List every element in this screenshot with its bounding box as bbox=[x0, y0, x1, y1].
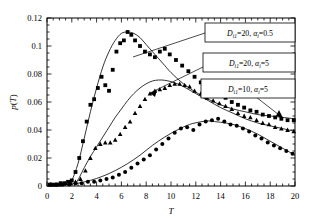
legend-label-2: Di1=20, αi=5 bbox=[228, 59, 269, 69]
data-point-circle bbox=[49, 183, 53, 187]
x-tick-label: 0 bbox=[45, 191, 49, 201]
data-point-circle bbox=[185, 125, 189, 129]
data-point-square bbox=[168, 53, 172, 57]
data-point-square bbox=[89, 103, 93, 107]
x-tick-label: 8 bbox=[144, 191, 148, 201]
data-point-square bbox=[111, 68, 115, 72]
data-point-square bbox=[92, 97, 96, 101]
y-tick-label: 0.1 bbox=[31, 41, 42, 51]
data-point-circle bbox=[253, 134, 257, 138]
x-tick-label: 18 bbox=[266, 191, 275, 201]
data-point-circle bbox=[80, 181, 84, 185]
data-point-square bbox=[74, 170, 78, 174]
x-tick-label: 6 bbox=[119, 191, 123, 201]
svg-text:p(T): p(T) bbox=[8, 94, 18, 111]
data-point-circle bbox=[266, 141, 270, 145]
data-point-square bbox=[122, 39, 126, 43]
x-tick-label: 14 bbox=[216, 191, 225, 201]
data-point-circle bbox=[67, 183, 71, 187]
x-tick-label: 12 bbox=[192, 191, 201, 201]
data-point-circle bbox=[61, 183, 65, 187]
y-tick-label: 0.04 bbox=[27, 125, 43, 135]
data-point-circle bbox=[117, 173, 121, 177]
data-point-circle bbox=[123, 170, 127, 174]
data-point-square bbox=[96, 86, 100, 90]
data-point-square bbox=[103, 83, 107, 87]
data-point-square bbox=[163, 47, 167, 51]
data-point-circle bbox=[216, 117, 220, 121]
data-point-circle bbox=[148, 153, 152, 157]
data-point-square bbox=[148, 53, 152, 57]
data-point-square bbox=[118, 41, 122, 45]
data-point-circle bbox=[160, 142, 164, 146]
data-point-circle bbox=[198, 122, 202, 126]
data-point-square bbox=[186, 69, 190, 73]
data-point-circle bbox=[105, 177, 109, 181]
data-point-square bbox=[242, 106, 246, 110]
data-point-circle bbox=[154, 148, 158, 152]
data-point-square bbox=[115, 50, 119, 54]
x-tick-label: 4 bbox=[94, 191, 99, 201]
figure-container: 02468101214161820 00.020.040.060.080.10.… bbox=[0, 0, 311, 222]
data-point-circle bbox=[55, 183, 59, 187]
data-point-square bbox=[133, 39, 137, 43]
data-point-circle bbox=[210, 118, 214, 122]
data-point-square bbox=[180, 64, 184, 68]
data-point-square bbox=[85, 120, 89, 124]
legend-label-3: Di1=10, αi=5 bbox=[227, 85, 268, 95]
data-point-square bbox=[248, 109, 252, 113]
data-point-circle bbox=[247, 129, 251, 133]
data-point-square bbox=[77, 156, 81, 160]
data-point-circle bbox=[284, 149, 288, 153]
data-point-circle bbox=[173, 131, 177, 135]
data-point-circle bbox=[142, 157, 146, 161]
data-point-circle bbox=[74, 181, 78, 185]
x-tick-label: 10 bbox=[167, 191, 176, 201]
data-point-circle bbox=[260, 136, 264, 140]
data-point-circle bbox=[129, 166, 133, 170]
data-point-circle bbox=[98, 178, 102, 182]
data-point-square bbox=[107, 89, 111, 93]
data-point-square bbox=[129, 33, 133, 37]
data-point-circle bbox=[191, 128, 195, 132]
data-point-square bbox=[100, 75, 104, 79]
data-point-square bbox=[174, 58, 178, 62]
data-point-square bbox=[153, 55, 157, 59]
data-point-circle bbox=[136, 162, 140, 166]
x-tick-label: 2 bbox=[70, 191, 74, 201]
data-point-square bbox=[286, 118, 290, 122]
data-point-circle bbox=[291, 152, 295, 156]
data-point-circle bbox=[272, 143, 276, 147]
y-axis-title: p(T) bbox=[8, 94, 18, 111]
x-tick-label: 16 bbox=[241, 191, 250, 201]
data-point-circle bbox=[241, 127, 245, 131]
data-point-square bbox=[193, 75, 197, 79]
data-point-square bbox=[236, 103, 240, 107]
x-tick-label: 20 bbox=[291, 191, 300, 201]
y-tick-label: 0 bbox=[38, 181, 42, 191]
data-point-square bbox=[261, 113, 265, 117]
data-point-square bbox=[158, 50, 162, 54]
data-point-square bbox=[292, 118, 296, 122]
data-point-circle bbox=[167, 136, 171, 140]
data-point-circle bbox=[86, 180, 90, 184]
data-point-circle bbox=[179, 127, 183, 131]
data-point-circle bbox=[235, 124, 239, 128]
data-point-circle bbox=[204, 120, 208, 124]
data-point-circle bbox=[222, 120, 226, 124]
data-point-circle bbox=[278, 146, 282, 150]
data-point-square bbox=[255, 110, 259, 114]
data-point-circle bbox=[111, 176, 115, 180]
data-point-circle bbox=[229, 122, 233, 126]
data-point-square bbox=[81, 139, 85, 143]
data-point-square bbox=[267, 114, 271, 118]
y-tick-label: 0.06 bbox=[27, 97, 42, 107]
data-point-square bbox=[230, 100, 234, 104]
data-point-square bbox=[126, 30, 130, 34]
data-point-square bbox=[138, 44, 142, 48]
y-tick-label: 0.12 bbox=[27, 13, 42, 23]
y-tick-label: 0.08 bbox=[27, 69, 42, 79]
chart-svg: 02468101214161820 00.020.040.060.080.10.… bbox=[0, 0, 311, 222]
data-point-circle bbox=[92, 180, 96, 184]
y-tick-label: 0.02 bbox=[27, 153, 42, 163]
